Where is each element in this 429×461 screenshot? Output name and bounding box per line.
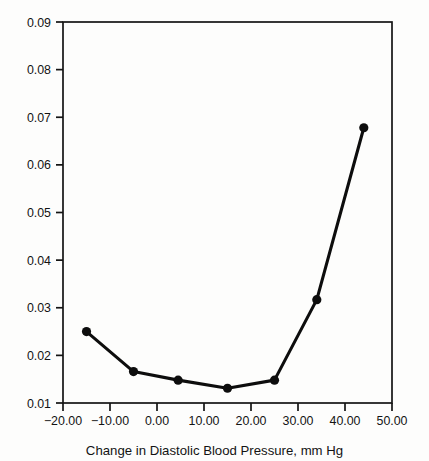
y-axis-ticks [56,22,63,403]
data-series-line [87,128,364,389]
data-point-marker [312,295,321,304]
x-tick-label: 30.00 [282,414,313,428]
y-tick-label: 0.07 [27,111,51,125]
x-tick-label: −10.00 [91,414,129,428]
x-tick-label: 10.00 [188,414,219,428]
chart-figure: 0.010.020.030.040.050.060.070.080.09 −20… [0,0,429,461]
x-tick-label: 50.00 [376,414,407,428]
y-tick-label: 0.04 [27,254,51,268]
y-tick-label: 0.01 [27,397,51,411]
y-tick-label: 0.06 [27,158,51,172]
y-tick-label: 0.05 [27,206,51,220]
plot-frame [63,22,392,403]
y-tick-label: 0.09 [27,16,51,30]
x-tick-label: 40.00 [329,414,360,428]
data-series-markers [82,123,369,393]
data-point-marker [359,123,368,132]
y-tick-label: 0.08 [27,63,51,77]
y-axis-tick-labels: 0.010.020.030.040.050.060.070.080.09 [27,16,51,411]
x-axis-tick-labels: −20.00−10.000.0010.0020.0030.0040.0050.0… [44,414,408,428]
x-axis-ticks [63,403,392,411]
x-tick-label: −20.00 [44,414,82,428]
y-tick-label: 0.03 [27,301,51,315]
data-point-marker [129,367,138,376]
x-axis-title: Change in Diastolic Blood Pressure, mm H… [86,443,343,458]
x-tick-label: 20.00 [235,414,266,428]
data-point-marker [174,376,183,385]
y-tick-label: 0.02 [27,349,51,363]
data-point-marker [82,327,91,336]
data-point-marker [223,384,232,393]
chart-canvas: 0.010.020.030.040.050.060.070.080.09 −20… [0,0,429,461]
x-tick-label: 0.00 [145,414,169,428]
data-point-marker [270,376,279,385]
